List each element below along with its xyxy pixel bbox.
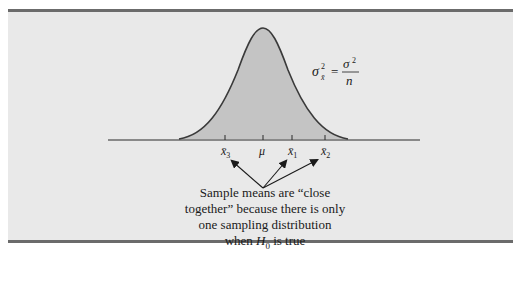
caption-line-1: Sample means are “close xyxy=(180,185,350,201)
variance-formula: σ 2 x̄ = σ 2 n xyxy=(312,56,359,88)
caption-line-4: when H0 is true xyxy=(180,233,350,254)
label-mu: μ xyxy=(258,144,265,158)
svg-text:=: = xyxy=(331,64,338,79)
svg-text:σ: σ xyxy=(343,56,350,71)
svg-text:n: n xyxy=(346,73,353,88)
svg-text:σ: σ xyxy=(312,64,320,79)
arrow-to-x2 xyxy=(263,160,317,188)
svg-text:2: 2 xyxy=(352,56,356,65)
arrow-to-x3 xyxy=(232,161,263,188)
caption-line-2: together” because there is only xyxy=(180,201,350,217)
label-x1: x̄1 xyxy=(287,144,297,160)
caption: Sample means are “close together” becaus… xyxy=(180,185,350,254)
label-x3: x̄3 xyxy=(220,144,230,160)
svg-text:2: 2 xyxy=(321,62,325,71)
normal-curve xyxy=(179,28,348,139)
svg-text:x̄: x̄ xyxy=(320,73,325,82)
caption-line-3: one sampling distribution xyxy=(180,217,350,233)
label-x2: x̄2 xyxy=(320,144,330,160)
arrow-to-x1 xyxy=(263,161,286,188)
